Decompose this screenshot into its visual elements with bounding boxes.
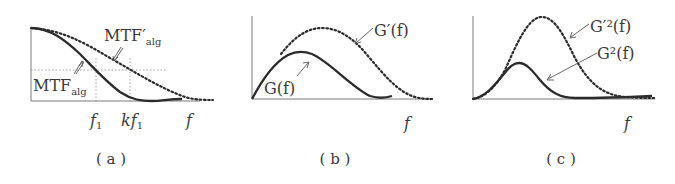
pointer-arrow-g-prime-squared: [570, 24, 589, 38]
label-g: G(f): [264, 79, 295, 98]
g-squared-curve: [473, 63, 652, 99]
caption-c: ( c ): [546, 150, 576, 168]
label-mtf-alg-prime: MTF′alg: [104, 26, 162, 47]
caption-a: ( a ): [96, 150, 126, 168]
x-axis-label: f: [185, 111, 195, 130]
figure: MTFalg MTF′alg f1 kf1 f ( a ) G(f) G′(f)…: [0, 0, 675, 184]
label-g-prime-squared: G′²(f): [590, 17, 631, 36]
pointer-arrow-g-prime: [355, 28, 373, 44]
label-g-prime: G′(f): [374, 21, 409, 40]
panel-c: G′²(f) G²(f) f ( c ): [473, 16, 656, 168]
panel-b: G(f) G′(f) f ( b ): [252, 16, 434, 168]
panel-a: MTFalg MTF′alg f1 kf1 f ( a ): [31, 26, 213, 168]
pointer-arrow-mtf-alg: [74, 61, 84, 74]
tick-label-kf1: kf1: [121, 111, 143, 131]
caption-b: ( b ): [320, 150, 351, 168]
tick-label-f1: f1: [89, 111, 102, 131]
pointer-arrow-g: [297, 62, 309, 76]
label-g-squared: G²(f): [597, 44, 635, 63]
x-axis-label: f: [623, 114, 633, 133]
pointer-arrow-g-squared: [547, 53, 597, 80]
label-mtf-alg: MTFalg: [33, 76, 87, 97]
x-axis-label: f: [403, 114, 413, 133]
pointer-arrow-mtf-alg-prime: [113, 47, 123, 61]
